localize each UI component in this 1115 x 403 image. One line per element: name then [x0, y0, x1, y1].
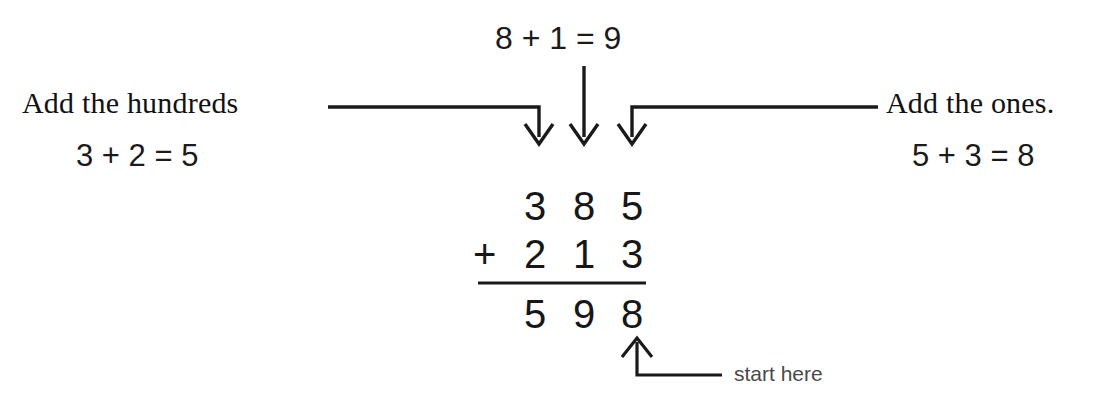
addend-one-ones-digit: 5: [610, 186, 654, 226]
start-here-elbow-arrow: [622, 338, 722, 375]
top-callout-equation: 8 + 1 = 9: [495, 22, 621, 54]
left-callout-equation: 3 + 2 = 5: [76, 140, 198, 171]
left-elbow-arrow: [328, 107, 553, 144]
total-ones-digit: 8: [610, 294, 654, 334]
total-hundreds-digit: 5: [513, 294, 557, 334]
addend-one-tens-digit: 8: [562, 186, 606, 226]
right-callout-label: Add the ones.: [886, 88, 1054, 118]
center-down-arrow: [570, 66, 598, 144]
arrow-artwork-layer: [0, 0, 1115, 403]
total-tens-digit: 9: [562, 294, 606, 334]
start-here-label: start here: [734, 363, 823, 384]
addition-diagram: 8 + 1 = 9 Add the hundreds 3 + 2 = 5 Add…: [0, 0, 1115, 403]
addend-one-hundreds-digit: 3: [513, 186, 557, 226]
right-elbow-arrow: [618, 107, 878, 144]
left-callout-label: Add the hundreds: [22, 88, 239, 118]
addend-two-hundreds-digit: 2: [513, 234, 557, 274]
right-callout-equation: 5 + 3 = 8: [912, 140, 1034, 171]
addend-two-ones-digit: 3: [610, 234, 654, 274]
addend-two-tens-digit: 1: [562, 234, 606, 274]
addition-operator: +: [473, 234, 496, 274]
